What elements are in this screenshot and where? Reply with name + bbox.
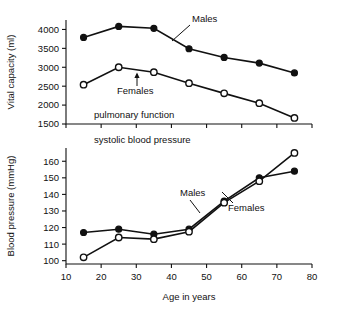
data-point-males	[291, 168, 297, 174]
annotation-females: Females	[117, 85, 154, 96]
x-tick-label: 60	[236, 271, 247, 282]
y-tick-label: 1500	[38, 118, 59, 129]
x-tick-label: 20	[96, 271, 107, 282]
data-point-females	[80, 254, 86, 260]
x-tick-label: 70	[272, 271, 283, 282]
x-axis-title: Age in years	[163, 291, 216, 302]
y-axis-title: Blood pressure (mmHg)	[5, 156, 16, 257]
annotation-females-arrowhead	[134, 73, 139, 79]
data-point-females	[151, 69, 157, 75]
figure-container: 150020002500300035004000Vital capacity (…	[0, 0, 340, 312]
data-point-males	[81, 230, 87, 236]
x-tick-label: 30	[131, 271, 142, 282]
y-tick-label: 3500	[38, 43, 59, 54]
chart-panel-systolic-blood-pressure: 1001101201301401501601020304050607080Blo…	[5, 134, 317, 302]
annotation-females: Females	[228, 202, 265, 213]
y-tick-label: 120	[43, 222, 59, 233]
y-tick-label: 160	[43, 156, 59, 167]
data-point-males	[151, 25, 157, 31]
y-tick-label: 130	[43, 205, 59, 216]
annotation-males-leader	[172, 25, 190, 41]
y-axis-title: Vital capacity (ml)	[5, 35, 16, 110]
x-tick-label: 50	[201, 271, 212, 282]
data-point-females	[186, 228, 192, 234]
y-tick-label: 3000	[38, 62, 59, 73]
data-point-males	[116, 226, 122, 232]
data-point-females	[256, 178, 262, 184]
data-point-males	[116, 23, 122, 29]
x-tick-label: 80	[307, 271, 318, 282]
data-point-females	[291, 150, 297, 156]
annotation-males: Males	[180, 187, 206, 198]
data-point-males	[291, 70, 297, 76]
data-point-females	[256, 100, 262, 106]
data-point-females	[116, 64, 122, 70]
y-tick-label: 4000	[38, 24, 59, 35]
y-tick-label: 140	[43, 189, 59, 200]
annotation-males-leader	[190, 200, 200, 213]
y-tick-label: 150	[43, 172, 59, 183]
data-point-males	[186, 46, 192, 52]
data-point-females	[291, 115, 297, 121]
x-tick-label: 40	[166, 271, 177, 282]
data-point-females	[221, 199, 227, 205]
data-point-males	[81, 34, 87, 40]
chart-subtitle: systolic blood pressure	[94, 134, 191, 145]
chart-panel-pulmonary-function: 150020002500300035004000Vital capacity (…	[5, 13, 312, 129]
y-tick-label: 2500	[38, 81, 59, 92]
data-point-females	[151, 236, 157, 242]
y-tick-label: 110	[44, 239, 59, 250]
data-point-females	[80, 81, 86, 87]
data-point-females	[186, 80, 192, 86]
data-point-males	[256, 60, 262, 66]
chart-svg: 150020002500300035004000Vital capacity (…	[0, 0, 340, 312]
x-tick-label: 10	[61, 271, 72, 282]
chart-subtitle: pulmonary function	[94, 109, 174, 120]
y-tick-label: 2000	[38, 99, 59, 110]
data-point-females	[221, 90, 227, 96]
data-point-males	[221, 54, 227, 60]
data-point-females	[116, 234, 122, 240]
annotation-males: Males	[192, 13, 218, 24]
y-tick-label: 100	[43, 255, 59, 266]
